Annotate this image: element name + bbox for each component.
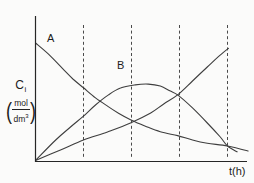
axes	[36, 16, 248, 162]
curve-b-label: B	[117, 59, 124, 71]
x-axis-label: t(h)	[229, 165, 246, 177]
y-axis-symbol: Ci	[0, 79, 42, 96]
unit-denominator-base: dm	[13, 114, 25, 124]
y-axis-label: Ci ( mol dm3 )	[0, 79, 42, 124]
close-paren: )	[30, 98, 36, 124]
concentration-subscript: i	[24, 85, 26, 94]
y-axis-units: ( mol dm3 )	[0, 98, 42, 124]
unit-exponent: 3	[25, 113, 28, 119]
unit-fraction: mol dm3	[12, 98, 30, 124]
open-paren: (	[6, 98, 12, 124]
kinetics-figure: A B Ci ( mol dm3 ) t(h)	[0, 0, 254, 183]
unit-numerator: mol	[12, 98, 30, 110]
dashed-gridlines	[84, 25, 228, 157]
curves-group	[36, 43, 249, 160]
curve-a-label: A	[47, 32, 54, 44]
unit-denominator: dm3	[13, 110, 28, 124]
